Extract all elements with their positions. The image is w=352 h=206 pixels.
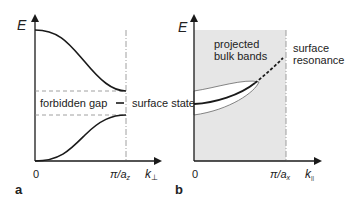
panel-b-letter: b	[175, 182, 183, 197]
panel-b: E projected bulk bands surface resonance…	[175, 16, 344, 197]
panel-b-x-label: k||	[305, 167, 315, 181]
band-structure-diagram: E forbidden gap surface state 0 π/az k⊥ …	[0, 0, 352, 206]
panel-a-boundary-label: π/az	[110, 168, 131, 181]
panel-a: E forbidden gap surface state 0 π/az k⊥ …	[15, 16, 195, 197]
panel-a-origin: 0	[33, 168, 39, 180]
panel-b-bulk-label-2: bulk bands	[214, 50, 268, 62]
panel-a-lower-band	[35, 115, 126, 161]
panel-a-x-label: k⊥	[145, 167, 158, 182]
panel-b-boundary-label: π/ax	[270, 168, 291, 181]
panel-b-y-label: E	[178, 19, 188, 35]
panel-b-resonance-label-1: surface	[293, 42, 329, 54]
panel-b-resonance-label-2: resonance	[293, 54, 344, 66]
panel-b-bulk-label-1: projected	[214, 38, 259, 50]
panel-a-upper-band	[35, 30, 126, 91]
panel-a-state-label: surface state	[132, 97, 195, 109]
panel-a-gap-label: forbidden gap	[40, 97, 107, 109]
panel-b-origin: 0	[192, 168, 198, 180]
panel-a-letter: a	[15, 182, 23, 197]
panel-a-y-label: E	[17, 17, 27, 33]
